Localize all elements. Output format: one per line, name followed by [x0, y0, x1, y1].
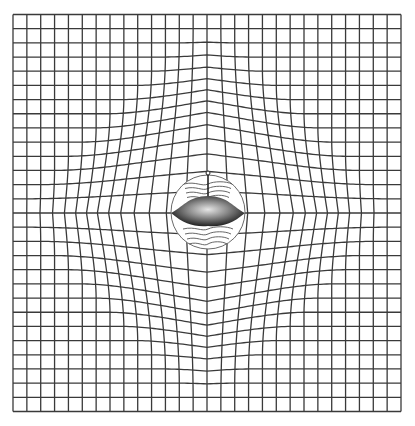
center-saucer-group	[171, 171, 245, 249]
illusion-canvas	[0, 0, 415, 426]
grid-line	[13, 383, 401, 384]
antenna-ball-icon	[206, 171, 210, 175]
distorted-grid-illustration	[0, 0, 415, 426]
grid-line	[373, 15, 374, 412]
